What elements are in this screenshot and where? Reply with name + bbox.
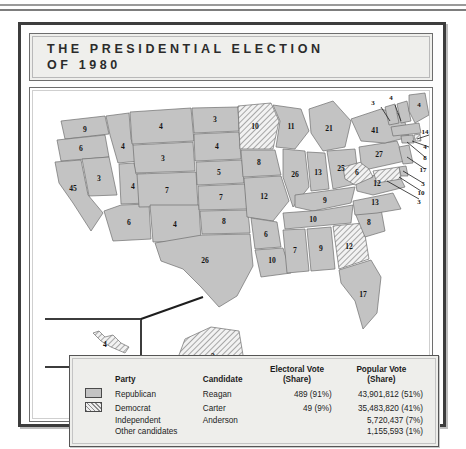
label-AZ: 6: [127, 218, 131, 227]
label-DC: 3: [417, 198, 421, 206]
label-TX-AK: 4: [103, 340, 107, 349]
label-DE: 3: [421, 180, 425, 188]
label-OK: 8: [222, 217, 226, 226]
legend-card: Party Candidate Electoral Vote (Share) P…: [69, 355, 439, 447]
label-AL: 9: [319, 244, 323, 253]
label-WY: 3: [161, 154, 165, 163]
label-WV: 6: [355, 168, 359, 177]
figure-plate: THE PRESIDENTIAL ELECTION OF 1980: [0, 0, 466, 449]
page-title-line2: OF 1980: [47, 57, 415, 73]
title-box: THE PRESIDENTIAL ELECTION OF 1980: [29, 33, 433, 81]
header-electoral: Electoral Vote (Share): [258, 365, 335, 387]
plate-frame: THE PRESIDENTIAL ELECTION OF 1980: [18, 22, 446, 427]
header-party: Party: [111, 365, 199, 387]
row-candidate: [199, 426, 258, 437]
label-GA: 12: [345, 242, 353, 251]
label-NC: 13: [371, 198, 379, 207]
top-rule-upper: [0, 4, 466, 6]
row-electoral: 49 (9%): [258, 401, 335, 415]
row-candidate: Anderson: [199, 415, 258, 426]
legend-header-row: Party Candidate Electoral Vote (Share) P…: [81, 365, 427, 387]
label-NJ: 17: [420, 166, 428, 174]
label-ID: 4: [121, 142, 125, 151]
state-OR: [57, 135, 109, 161]
legend-table: Party Candidate Electoral Vote (Share) P…: [81, 365, 427, 437]
row-electoral: 489 (91%): [258, 387, 335, 401]
label-CO: 7: [165, 186, 169, 195]
header-popular-line1: Popular Vote: [356, 365, 406, 374]
row-popular: 5,720,437 (7%): [336, 415, 427, 426]
label-VA: 12: [373, 179, 381, 188]
label-FL: 17: [359, 290, 367, 299]
label-SC: 8: [367, 218, 371, 227]
label-AR: 6: [264, 230, 268, 239]
page-title-line1: THE PRESIDENTIAL ELECTION: [47, 41, 415, 57]
state-HI: [93, 331, 129, 353]
label-LA: 10: [268, 256, 276, 265]
legend-inner: Party Candidate Electoral Vote (Share) P…: [72, 358, 436, 444]
legend-swatch-col: [81, 365, 111, 387]
label-KY: 9: [323, 196, 327, 205]
label-PA: 27: [375, 150, 383, 159]
label-SD: 4: [215, 142, 219, 151]
label-ND: 3: [213, 115, 217, 124]
label-MN: 10: [251, 122, 259, 131]
row-electoral: [258, 415, 335, 426]
state-CT: [401, 135, 414, 143]
label-NE: 5: [217, 168, 221, 177]
label-MA: 14: [422, 128, 430, 136]
header-candidate: Candidate: [199, 365, 258, 387]
label-NH: 4: [389, 94, 393, 102]
label-WA: 9: [83, 125, 87, 134]
row-popular: 35,483,820 (41%): [336, 401, 427, 415]
state-TX: [155, 234, 253, 307]
row-popular: 43,901,812 (51%): [336, 387, 427, 401]
label-RI: 4: [423, 143, 427, 151]
table-row: Democrat Carter 49 (9%) 35,483,820 (41%): [81, 401, 427, 415]
row-electoral: [258, 426, 335, 437]
label-CA: 45: [69, 184, 77, 193]
label-NY: 41: [371, 126, 379, 135]
row-candidate: Reagan: [199, 387, 258, 401]
democrat-swatch: [85, 402, 102, 412]
row-party: Democrat: [111, 401, 199, 415]
row-party: Republican: [111, 387, 199, 401]
label-MI: 21: [325, 124, 333, 133]
header-electoral-line2: (Share): [283, 375, 311, 384]
label-WI: 11: [287, 122, 294, 131]
state-RI: [414, 134, 421, 141]
label-IL: 26: [291, 170, 299, 179]
label-MT: 4: [159, 122, 163, 131]
label-IN: 13: [314, 168, 322, 177]
label-MD: 10: [418, 189, 426, 197]
label-TN: 10: [309, 215, 317, 224]
label-MS: 7: [293, 246, 297, 255]
label-CT: 8: [423, 154, 427, 162]
state-IA: [241, 150, 281, 177]
row-popular: 1,155,593 (1%): [336, 426, 427, 437]
title-inner: THE PRESIDENTIAL ELECTION OF 1980: [32, 36, 430, 78]
top-rule-lower: [0, 9, 466, 11]
label-OR: 6: [79, 144, 83, 153]
label-UT: 4: [131, 182, 135, 191]
row-party: Independent: [111, 415, 199, 426]
label-ME: 4: [417, 101, 421, 109]
label-NV: 3: [97, 174, 101, 183]
row-party: Other candidates: [111, 426, 199, 437]
header-electoral-line1: Electoral Vote: [270, 365, 324, 374]
header-popular: Popular Vote (Share): [336, 365, 427, 387]
label-NM: 4: [173, 220, 177, 229]
table-row: Other candidates 1,155,593 (1%): [81, 426, 427, 437]
republican-swatch: [85, 388, 102, 398]
row-candidate: Carter: [199, 401, 258, 415]
republican-swatch-cell: [81, 387, 111, 401]
label-TX: 26: [201, 256, 209, 265]
table-row: Independent Anderson 5,720,437 (7%): [81, 415, 427, 426]
label-MO: 12: [260, 192, 268, 201]
table-row: Republican Reagan 489 (91%) 43,901,812 (…: [81, 387, 427, 401]
label-VT: 3: [371, 99, 375, 107]
no-swatch-cell: [81, 415, 111, 426]
democrat-swatch-cell: [81, 401, 111, 415]
header-popular-line2: (Share): [367, 375, 395, 384]
label-KS: 7: [219, 193, 223, 202]
